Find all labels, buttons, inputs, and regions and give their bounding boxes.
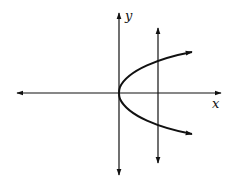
y-axis-label: y (124, 8, 133, 23)
diagram-canvas: y x (0, 0, 234, 183)
x-axis-label: x (212, 96, 220, 111)
